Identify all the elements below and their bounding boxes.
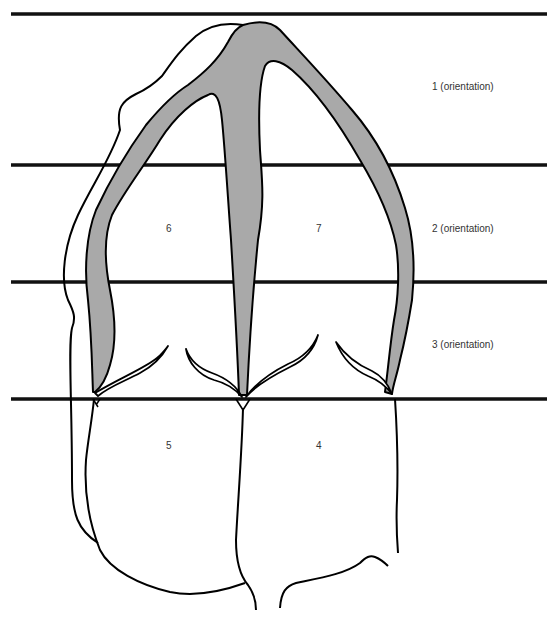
lower-left-inner-wall <box>86 399 245 594</box>
segment-label-7: 7 <box>316 223 322 235</box>
segment-label-4: 4 <box>316 440 322 452</box>
septum-lower <box>236 408 256 610</box>
valve-leaflet-right-2 <box>336 342 392 394</box>
orientation-label-2: 2 (orientation) <box>432 223 494 235</box>
segment-label-6: 6 <box>166 223 172 235</box>
orientation-label-3: 3 (orientation) <box>432 339 494 351</box>
valve-leaflet-left-2 <box>186 349 242 397</box>
shaded-wall <box>86 22 414 395</box>
segment-label-5: 5 <box>166 440 172 452</box>
lower-right-base <box>280 556 388 608</box>
lower-right-wall <box>395 399 398 553</box>
valve-leaflet-right-1 <box>246 335 318 397</box>
orientation-label-1: 1 (orientation) <box>432 81 494 93</box>
